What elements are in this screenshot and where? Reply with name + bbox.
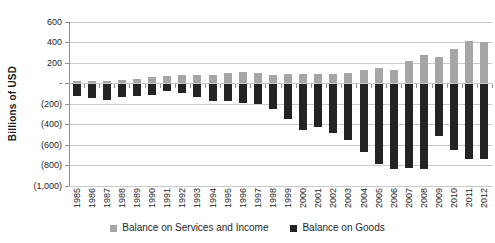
bar-goods-1989 xyxy=(133,84,141,96)
x-axis-tick xyxy=(69,84,70,88)
bar-services-income-2009 xyxy=(435,57,443,83)
x-axis-tick xyxy=(447,84,448,88)
y-tick-label: 400 xyxy=(20,37,62,48)
x-axis-tick xyxy=(296,84,297,88)
x-axis-tick xyxy=(281,84,282,88)
x-axis-tick xyxy=(356,84,357,88)
x-axis-tick xyxy=(175,84,176,88)
bar-goods-1986 xyxy=(88,84,96,99)
bar-services-income-2002 xyxy=(329,74,337,83)
gridline xyxy=(69,63,492,64)
bar-services-income-2011 xyxy=(465,41,473,84)
bar-services-income-2000 xyxy=(299,74,307,84)
gridline xyxy=(69,124,492,125)
bar-services-income-2012 xyxy=(480,42,488,84)
bar-goods-2005 xyxy=(375,84,383,165)
x-axis-tick xyxy=(477,84,478,88)
bar-services-income-2006 xyxy=(390,70,398,83)
bar-services-income-1991 xyxy=(163,76,171,83)
bar-goods-2009 xyxy=(435,84,443,136)
x-tick-label: 2012 xyxy=(479,188,489,216)
x-tick-label: 1999 xyxy=(283,188,293,216)
x-tick-label: 2005 xyxy=(374,188,384,216)
x-tick-label: 1992 xyxy=(177,188,187,216)
x-tick-label: 2006 xyxy=(389,188,399,216)
bar-goods-2004 xyxy=(360,84,368,153)
gridline xyxy=(69,186,492,187)
x-axis-tick xyxy=(386,84,387,88)
bar-services-income-1995 xyxy=(224,73,232,83)
x-tick-label: 1989 xyxy=(132,188,142,216)
x-tick-label: 1993 xyxy=(192,188,202,216)
goods-swatch-icon xyxy=(290,225,297,232)
bar-services-income-1997 xyxy=(254,73,262,84)
x-tick-label: 1985 xyxy=(72,188,82,216)
x-axis-tick xyxy=(416,84,417,88)
x-axis-tick xyxy=(371,84,372,88)
legend-label-services-income: Balance on Services and Income xyxy=(122,222,268,234)
bar-goods-2011 xyxy=(465,84,473,160)
x-axis-tick xyxy=(235,84,236,88)
y-tick-label: 600 xyxy=(20,17,62,28)
y-tick-label: (1,000) xyxy=(20,181,62,192)
legend-label-goods: Balance on Goods xyxy=(302,222,384,234)
bar-services-income-1999 xyxy=(284,74,292,84)
gridline xyxy=(69,42,492,43)
x-tick-label: 2011 xyxy=(464,188,474,216)
x-tick-label: 2010 xyxy=(449,188,459,216)
x-axis-tick xyxy=(205,84,206,88)
y-tick-label: (800) xyxy=(20,160,62,171)
bar-services-income-2005 xyxy=(375,68,383,83)
x-tick-label: 1990 xyxy=(147,188,157,216)
y-tick-label: - xyxy=(20,78,62,89)
bar-services-income-2004 xyxy=(360,70,368,83)
y-tick-label: (400) xyxy=(20,119,62,130)
bar-services-income-1994 xyxy=(209,75,217,84)
x-tick-label: 2009 xyxy=(434,188,444,216)
x-axis-tick xyxy=(129,84,130,88)
bar-goods-2006 xyxy=(390,84,398,170)
x-axis-tick xyxy=(250,84,251,88)
bar-goods-1992 xyxy=(178,84,186,94)
bar-goods-1995 xyxy=(224,84,232,102)
bar-goods-1988 xyxy=(118,84,126,97)
gridline xyxy=(69,22,492,23)
x-tick-label: 2002 xyxy=(328,188,338,216)
y-axis-title: Billions of USD xyxy=(7,44,20,164)
x-tick-label: 2003 xyxy=(343,188,353,216)
bar-services-income-2008 xyxy=(420,55,428,84)
y-tick-label: (600) xyxy=(20,140,62,151)
x-axis-tick xyxy=(160,84,161,88)
x-axis-tick xyxy=(99,84,100,88)
bar-goods-1999 xyxy=(284,84,292,119)
x-axis-tick xyxy=(190,84,191,88)
x-tick-label: 2008 xyxy=(419,188,429,216)
y-axis-line xyxy=(69,22,70,186)
bar-goods-1990 xyxy=(148,84,156,95)
balance-of-payments-chart: Billions of USD 600400200-(200)(400)(600… xyxy=(0,0,495,243)
bar-goods-2000 xyxy=(299,84,307,130)
bar-goods-1994 xyxy=(209,84,217,101)
y-tick-label: (200) xyxy=(20,99,62,110)
bar-goods-2010 xyxy=(450,84,458,151)
x-tick-label: 1988 xyxy=(117,188,127,216)
bar-goods-1996 xyxy=(239,84,247,104)
x-axis-tick xyxy=(220,84,221,88)
gridline xyxy=(69,165,492,166)
legend-item-services-income: Balance on Services and Income xyxy=(110,222,268,234)
bar-services-income-2010 xyxy=(450,49,458,83)
bar-services-income-2001 xyxy=(314,74,322,84)
bar-goods-1997 xyxy=(254,84,262,104)
services-income-swatch-icon xyxy=(110,225,117,232)
x-tick-label: 1998 xyxy=(268,188,278,216)
bar-services-income-1996 xyxy=(239,72,247,83)
bar-goods-1985 xyxy=(73,84,81,97)
x-tick-label: 1986 xyxy=(87,188,97,216)
legend-item-goods: Balance on Goods xyxy=(290,222,384,234)
x-axis-tick xyxy=(84,84,85,88)
x-axis-tick xyxy=(311,84,312,88)
x-tick-label: 1996 xyxy=(238,188,248,216)
bar-goods-2007 xyxy=(405,84,413,168)
x-axis-tick xyxy=(326,84,327,88)
x-axis-tick xyxy=(114,84,115,88)
